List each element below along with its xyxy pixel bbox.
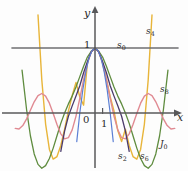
axes-group — [2, 6, 182, 168]
curve-label-s2: s2 — [118, 152, 127, 162]
x-tick-label-1: 1 — [101, 119, 107, 129]
curve-label-s0: s0 — [117, 41, 126, 51]
curve-label-j0: J0 — [160, 140, 168, 150]
origin-label: 0 — [83, 115, 89, 125]
curve-label-s8: s8 — [160, 85, 169, 95]
y-axis-arrowhead — [92, 6, 99, 13]
curve-label-s6: s6 — [140, 152, 149, 162]
x-axis-label: x — [177, 112, 183, 123]
bessel-partial-sums-figure: y x 0 1 1 s0 s4 s8 J0 s2 s6 — [0, 0, 188, 171]
y-tick-label-1: 1 — [84, 40, 90, 50]
curve-label-s4: s4 — [146, 27, 155, 37]
y-axis-label: y — [84, 8, 90, 19]
